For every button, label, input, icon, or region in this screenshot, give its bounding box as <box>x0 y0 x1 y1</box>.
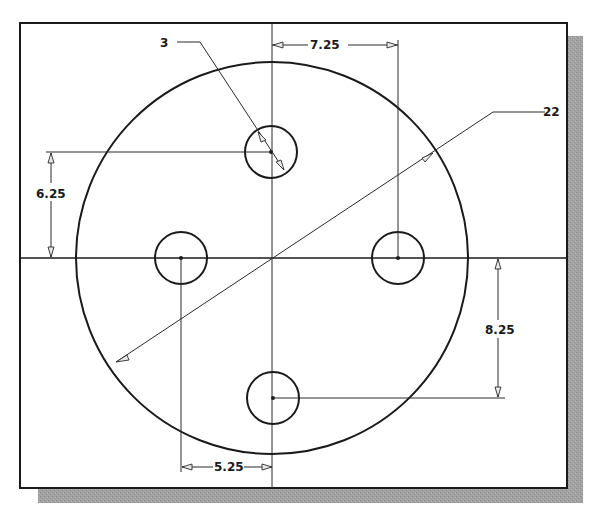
dim-6-25-label: 6.25 <box>36 187 66 201</box>
dim-8-25-label: 8.25 <box>485 323 515 337</box>
dim-5-25-label: 5.25 <box>214 460 244 474</box>
technical-drawing: 3 7.25 22 6.25 8.25 5.25 <box>0 0 595 514</box>
dim-7-25-label: 7.25 <box>310 38 340 52</box>
drawing-frame <box>20 23 567 488</box>
hole-diameter-label: 3 <box>160 36 168 50</box>
plate-diameter-label: 22 <box>543 105 560 119</box>
